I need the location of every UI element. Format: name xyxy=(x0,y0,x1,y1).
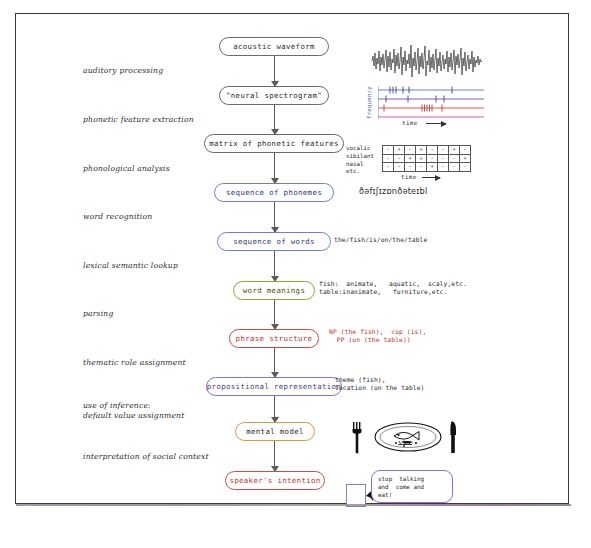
stage-label-interpretation-social-context: interpretation of social context xyxy=(83,452,209,462)
feature-matrix-cell: - xyxy=(416,163,427,172)
arrow-mental-to-intention xyxy=(274,441,275,471)
node-sequence-of-phonemes[interactable]: sequence of phonemes xyxy=(214,183,334,202)
annotation-word-meanings: fish: animate, aquatic, scaly,etc. table… xyxy=(319,280,467,296)
feature-matrix-cell: - xyxy=(394,163,405,172)
feature-matrix-cell: - xyxy=(438,163,449,172)
feature-matrix-cell: + xyxy=(405,154,416,163)
arrow-waveform-to-spectrogram xyxy=(274,56,275,86)
arrow-phrase-to-proposition xyxy=(274,348,275,377)
feature-matrix-x-axis-label: time xyxy=(401,174,417,180)
feature-matrix-cell: - xyxy=(438,146,449,155)
feature-matrix-cell: + xyxy=(460,154,471,163)
annotation-word-string: the/fish/is/on/the/table xyxy=(334,236,427,244)
stage-label-word-recognition: word recognition xyxy=(83,212,152,222)
annotation-phrase-structure: NP (the fish), cop (is), PP (on (the tab… xyxy=(329,328,426,344)
feature-matrix-cell: - xyxy=(394,154,405,163)
feature-matrix-time-arrow-icon xyxy=(422,177,440,178)
arrow-matrix-to-phonemes xyxy=(274,153,275,183)
feature-matrix-row-label-nasal: nasal xyxy=(346,161,363,167)
stage-label-use-of-inference: use of inference: default value assignme… xyxy=(83,401,184,421)
feature-matrix-cell: - xyxy=(405,163,416,172)
speech-bubble-text: stop talking and come and eat! xyxy=(378,475,424,499)
neural-spectrogram-plot: frequency xyxy=(368,86,486,128)
node-acoustic-waveform[interactable]: acoustic waveform xyxy=(219,37,329,56)
place-setting-illustration xyxy=(346,418,466,458)
node-sequence-of-words[interactable]: sequence of words xyxy=(217,232,331,251)
spectrogram-time-arrow-icon xyxy=(426,123,446,124)
annotation-phoneme-string: ðəfɪʃɪzɒnðəteɪbl xyxy=(359,187,427,195)
arrow-proposition-to-mental xyxy=(274,396,275,422)
feature-matrix-cell: - xyxy=(449,163,460,172)
knife-icon xyxy=(450,421,456,453)
feature-matrix-cell: - xyxy=(427,146,438,155)
figure-canvas: acoustic waveform "neural spectrogram" m… xyxy=(0,0,591,548)
feature-matrix-row-label-etc: etc. xyxy=(346,168,360,174)
feature-matrix-cell: - xyxy=(438,154,449,163)
feature-matrix-cell: - xyxy=(405,146,416,155)
feature-matrix-row: -+-+--+- xyxy=(383,146,471,155)
node-matrix-phonetic-features[interactable]: matrix of phonetic features xyxy=(204,134,344,153)
feature-matrix-cell: + xyxy=(394,146,405,155)
stage-label-parsing: parsing xyxy=(83,309,114,319)
feature-matrix-row: --++---+ xyxy=(383,154,471,163)
figure-frame-shadow xyxy=(16,504,571,506)
stage-label-auditory-processing: auditory processing xyxy=(83,66,163,76)
stage-label-thematic-role-assignment: thematic role assignment xyxy=(83,358,186,368)
node-mental-model[interactable]: mental model xyxy=(235,422,315,441)
feature-matrix-cell: - xyxy=(383,154,394,163)
stage-label-lexical-semantic-lookup: lexical semantic lookup xyxy=(83,261,178,271)
feature-matrix-cell: - xyxy=(383,163,394,172)
node-neural-spectrogram[interactable]: "neural spectrogram" xyxy=(219,86,329,105)
feature-matrix-cell: + xyxy=(416,154,427,163)
node-propositional-representation[interactable]: propositional representation xyxy=(206,377,342,396)
arrow-spectrogram-to-matrix xyxy=(274,105,275,134)
feature-matrix-cell: - xyxy=(460,163,471,172)
acoustic-waveform-icon xyxy=(371,44,483,78)
arrow-words-to-meanings xyxy=(274,251,275,281)
spectrogram-y-axis-label: frequency xyxy=(366,85,372,119)
phonetic-feature-matrix: -+-+--+---++---+----+--- xyxy=(382,145,471,172)
figure-frame: acoustic waveform "neural spectrogram" m… xyxy=(15,13,569,504)
speech-bubble: stop talking and come and eat! xyxy=(371,470,453,503)
feature-matrix-cell: + xyxy=(416,146,427,155)
stage-label-phonetic-feature-extraction: phonetic feature extraction xyxy=(83,115,194,125)
spectrogram-bands xyxy=(378,86,486,120)
annotation-thematic-roles: theme (fish), location (on the table) xyxy=(335,376,425,392)
fork-icon xyxy=(353,422,362,453)
feature-matrix-cell: + xyxy=(449,146,460,155)
spectrogram-x-axis-label: time xyxy=(402,120,418,126)
node-phrase-structure[interactable]: phrase structure xyxy=(229,329,319,348)
feature-matrix-row-label-vocalic: vocalic xyxy=(346,145,370,151)
arrow-meanings-to-phrase xyxy=(274,300,275,329)
feature-matrix-row-labels: vocalic sibilant nasal etc. xyxy=(346,145,374,176)
feature-matrix-cell: - xyxy=(383,146,394,155)
arrow-phonemes-to-words xyxy=(274,202,275,232)
feature-matrix-cell: - xyxy=(460,146,471,155)
node-speakers-intention[interactable]: speaker's intention xyxy=(225,471,325,490)
feature-matrix-cell: - xyxy=(427,154,438,163)
feature-matrix-row: ----+--- xyxy=(383,163,471,172)
feature-matrix-cell: - xyxy=(449,154,460,163)
feature-matrix-cell: + xyxy=(427,163,438,172)
feature-matrix-row-label-sibilant: sibilant xyxy=(346,153,374,159)
stage-label-phonological-analysis: phonological analysis xyxy=(83,164,170,174)
node-word-meanings[interactable]: word meanings xyxy=(233,281,315,300)
